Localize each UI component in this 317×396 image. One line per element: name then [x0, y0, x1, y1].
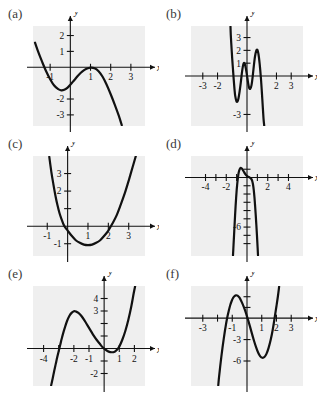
- y-axis-arrow: [244, 16, 249, 21]
- x-axis-arrow: [150, 346, 155, 351]
- y-axis-arrow: [244, 276, 249, 281]
- y-axis-label: y: [250, 272, 256, 277]
- y-tick-label: 2: [236, 46, 241, 56]
- x-tick-label: -2: [214, 81, 222, 91]
- y-axis-arrow: [102, 276, 107, 281]
- x-tick-label: 2: [108, 72, 113, 82]
- plot-background: [33, 286, 145, 386]
- x-tick-label: -4: [202, 182, 210, 192]
- y-tick-label: -3: [233, 335, 241, 345]
- y-tick-label: 1: [60, 47, 65, 57]
- y-tick-label: -2: [56, 94, 64, 104]
- y-tick-label: 3: [93, 306, 98, 316]
- x-tick-label: -2: [70, 354, 78, 364]
- x-tick-label: 3: [289, 323, 294, 333]
- x-tick-label: -1: [85, 354, 93, 364]
- y-axis-label: y: [250, 142, 256, 147]
- x-tick-label: -3: [199, 81, 207, 91]
- plot-b: -3-223321-3xy: [177, 12, 317, 140]
- x-tick-label: -1: [43, 231, 51, 241]
- y-axis-arrow: [65, 146, 70, 151]
- y-tick-label: -3: [56, 110, 64, 120]
- x-tick-label: 3: [126, 231, 131, 241]
- x-axis-arrow: [308, 73, 313, 78]
- y-tick-label: 4: [93, 294, 98, 304]
- panel-e: (e)-4-2-11243-2xy: [0, 260, 158, 390]
- x-tick-label: 1: [86, 231, 91, 241]
- x-tick-label: 2: [132, 354, 137, 364]
- x-tick-label: -4: [40, 354, 48, 364]
- y-tick-label: 2: [57, 186, 62, 196]
- y-tick-label: 2: [60, 31, 65, 41]
- x-axis-arrow: [150, 224, 155, 229]
- x-tick-label: -2: [222, 182, 230, 192]
- panel-a: (a)-112321-2-3xy: [0, 0, 158, 130]
- x-tick-label: 2: [274, 81, 279, 91]
- y-axis-arrow: [244, 146, 249, 151]
- y-axis-arrow: [68, 16, 73, 21]
- x-tick-label: 3: [128, 72, 133, 82]
- x-tick-label: -3: [199, 323, 207, 333]
- y-tick-label: -1: [54, 239, 62, 249]
- x-axis-arrow: [308, 175, 313, 180]
- y-tick-label: -2: [90, 369, 98, 379]
- x-tick-label: 1: [117, 354, 122, 364]
- y-tick-label: -3: [233, 110, 241, 120]
- plot-e: -4-2-11243-2xy: [19, 272, 159, 396]
- y-tick-label: 3: [236, 33, 241, 43]
- plot-d: -4-224-6xy: [177, 142, 317, 270]
- x-tick-label: 1: [259, 323, 264, 333]
- y-axis-label: y: [250, 12, 256, 17]
- panel-c: (c)-112332-1xy: [0, 130, 158, 260]
- x-axis-arrow: [308, 316, 313, 321]
- x-tick-label: -1: [228, 323, 236, 333]
- panel-d: (d)-4-224-6xy: [158, 130, 315, 260]
- x-axis-arrow: [150, 65, 155, 70]
- y-tick-label: -6: [233, 356, 241, 366]
- x-axis-label: x: [314, 173, 317, 183]
- panel-f: (f)-3-1123-3-6xy: [158, 260, 315, 390]
- x-axis-label: x: [314, 72, 317, 82]
- x-tick-label: 3: [289, 81, 294, 91]
- y-axis-label: y: [71, 142, 77, 147]
- plot-c: -112332-1xy: [19, 142, 159, 270]
- x-tick-label: 2: [265, 182, 270, 192]
- x-tick-label: 1: [88, 72, 93, 82]
- y-axis-label: y: [107, 272, 113, 277]
- y-tick-label: 3: [57, 169, 62, 179]
- x-axis-label: x: [314, 314, 317, 324]
- plot-a: -112321-2-3xy: [19, 12, 159, 140]
- x-tick-label: 2: [274, 323, 279, 333]
- x-tick-label: 4: [286, 182, 291, 192]
- y-tick-label: 1: [236, 59, 241, 69]
- y-axis-label: y: [73, 12, 79, 17]
- plot-f: -3-1123-3-6xy: [177, 272, 317, 396]
- panel-b: (b)-3-223321-3xy: [158, 0, 315, 130]
